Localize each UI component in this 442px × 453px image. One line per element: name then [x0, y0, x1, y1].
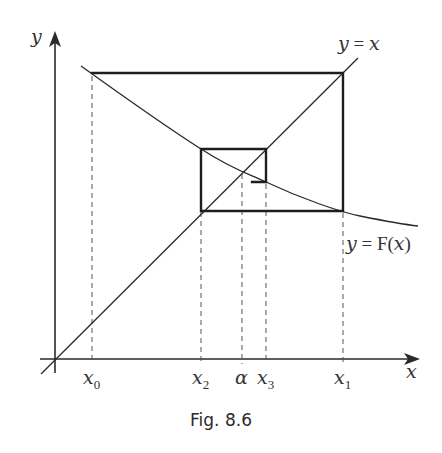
tick-label-alpha: α [235, 366, 248, 388]
labels: y x y = x y = F(x) x0 x2 α x3 x1 [30, 25, 417, 392]
cobweb-outer [92, 73, 343, 211]
identity-line-label: y = x [337, 32, 380, 54]
function-curve-label: y = F(x) [345, 232, 411, 255]
x-axis-label: x [406, 360, 417, 382]
tick-label-x2: x2 [192, 366, 209, 392]
identity-line [41, 58, 358, 374]
y-axis-label: y [30, 25, 42, 47]
dashed-guides [92, 76, 343, 364]
function-curve [81, 66, 418, 226]
figure-caption: Fig. 8.6 [0, 410, 442, 430]
axes [40, 31, 420, 373]
cobweb-path [92, 73, 343, 211]
tick-label-x1: x1 [334, 366, 351, 392]
tick-label-x0: x0 [83, 366, 100, 392]
tick-label-x3: x3 [257, 366, 274, 392]
cobweb-diagram: y x y = x y = F(x) x0 x2 α x3 x1 [0, 0, 442, 453]
